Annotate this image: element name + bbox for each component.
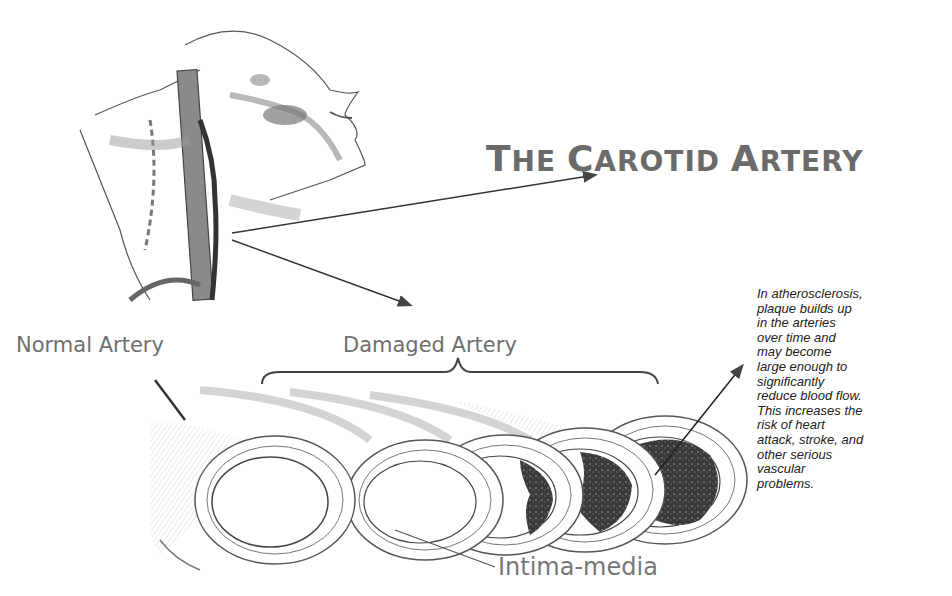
description-line: significantly (757, 375, 952, 390)
title-pointer-arrow (232, 175, 595, 233)
damaged-artery-label: Damaged Artery (343, 333, 517, 357)
description-line: problems. (757, 477, 952, 492)
description-line: In atherosclerosis, (757, 287, 952, 302)
description-line: risk of heart (757, 418, 952, 433)
title-part: RTERY (760, 145, 864, 178)
description-line: vascular (757, 462, 952, 477)
normal-artery-label: Normal Artery (16, 333, 164, 357)
title-part: C (567, 138, 594, 179)
title-part: AROTID (594, 145, 731, 178)
head-neck-sketch (80, 31, 365, 300)
artery-cross-sections (150, 390, 747, 570)
description-line: This increases the (757, 404, 952, 419)
description-line: over time and (757, 331, 952, 346)
description-line: large enough to (757, 360, 952, 375)
title-part: A (731, 138, 760, 179)
description-line: in the arteries (757, 316, 952, 331)
normal-pointer-line (155, 380, 185, 420)
description-line: plaque builds up (757, 302, 952, 317)
description-line: reduce blood flow. (757, 389, 952, 404)
damaged-pointer-arrow (232, 240, 410, 305)
description-line: attack, stroke, and (757, 433, 952, 448)
description-line: may become (757, 345, 952, 360)
intima-media-label: Intima-media (498, 553, 658, 581)
diagram-title: THE CAROTID ARTERY (486, 138, 864, 179)
atherosclerosis-description: In atherosclerosis, plaque builds up in … (757, 287, 952, 491)
description-line: other serious (757, 448, 952, 463)
title-part: T (486, 138, 512, 179)
damaged-brace (262, 358, 658, 384)
title-part: HE (512, 145, 567, 178)
